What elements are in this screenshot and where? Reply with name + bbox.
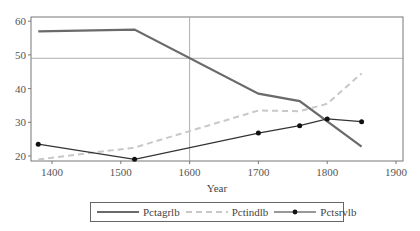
line-chart: 2030405060 140015001600170018001900 Year (0, 0, 420, 231)
legend-label: Pctsrvlb (320, 206, 356, 218)
legend-item-pctindlb: Pctindlb (186, 206, 269, 218)
x-tick-label: 1400 (41, 166, 64, 178)
plot-frame (31, 17, 403, 161)
x-tick-label: 1600 (179, 166, 202, 178)
y-tick-label: 30 (15, 116, 27, 128)
data-point-marker (359, 119, 364, 124)
data-point-marker (132, 157, 137, 162)
legend-item-pctsrvlb: Pctsrvlb (274, 206, 356, 218)
y-tick-label: 50 (15, 49, 27, 61)
x-tick-label: 1900 (385, 166, 408, 178)
solid-line-swatch-icon (97, 208, 139, 216)
x-tick-label: 1800 (316, 166, 339, 178)
dashed-line-swatch-icon (186, 208, 228, 216)
data-point-marker (325, 116, 330, 121)
legend: Pctagrlb Pctindlb Pctsrvlb (90, 202, 344, 222)
data-point-marker (297, 123, 302, 128)
x-tick-label: 1700 (247, 166, 270, 178)
data-point-marker (36, 142, 41, 147)
x-tick-label: 1500 (110, 166, 133, 178)
y-tick-label: 20 (15, 150, 27, 162)
legend-item-pctagrlb: Pctagrlb (97, 206, 180, 218)
y-tick-label: 60 (15, 15, 27, 27)
x-axis-title: Year (207, 182, 228, 194)
y-axis: 2030405060 (15, 15, 31, 162)
legend-label: Pctindlb (232, 206, 269, 218)
data-point-marker (256, 131, 261, 136)
legend-label: Pctagrlb (143, 206, 180, 218)
x-axis: 140015001600170018001900 (41, 161, 408, 178)
y-tick-label: 40 (15, 83, 27, 95)
marker-line-swatch-icon (274, 208, 316, 216)
